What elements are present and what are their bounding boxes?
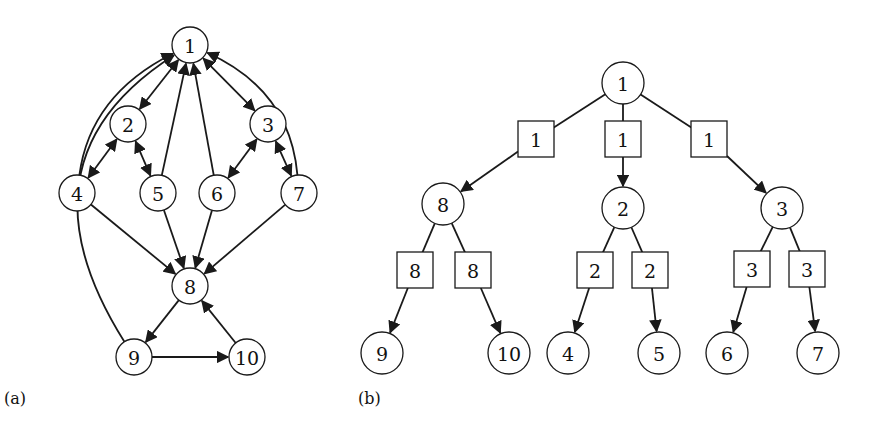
edge-weight-box-2-4: 2 bbox=[577, 252, 613, 288]
edge-6-1 bbox=[193, 64, 213, 176]
tree-node-1: 1 bbox=[602, 62, 644, 104]
node-label: 1 bbox=[617, 73, 629, 95]
edge-weight-box-3-7: 3 bbox=[789, 251, 825, 287]
node-label: 7 bbox=[812, 343, 824, 365]
panel-a-directed-graph: 12345678910 (a) bbox=[4, 27, 317, 408]
panel-a-nodes: 12345678910 bbox=[59, 27, 317, 375]
node-label: 5 bbox=[152, 183, 164, 205]
tree-node-5: 5 bbox=[638, 332, 680, 374]
node-5: 5 bbox=[140, 175, 176, 211]
edge-weight-box-2-5: 2 bbox=[632, 252, 668, 288]
tree-node-7: 7 bbox=[797, 332, 839, 374]
edge-8-9 bbox=[146, 300, 179, 342]
edge-box-3 bbox=[727, 156, 766, 193]
node-2: 2 bbox=[110, 106, 146, 142]
box-label: 1 bbox=[703, 129, 715, 151]
edge-10-8 bbox=[202, 301, 236, 343]
box-label: 3 bbox=[746, 259, 758, 281]
box-label: 1 bbox=[530, 129, 542, 151]
panel-b-nodes: 18239104567 bbox=[361, 62, 839, 374]
tree-node-6: 6 bbox=[706, 332, 748, 374]
edge-1-3 bbox=[203, 59, 254, 111]
node-label: 6 bbox=[211, 183, 223, 205]
edge-2-5 bbox=[136, 141, 151, 175]
tree-node-3: 3 bbox=[761, 187, 803, 229]
panel-a-label: (a) bbox=[4, 389, 26, 408]
edge-weight-box-8-9: 8 bbox=[397, 252, 433, 288]
node-8: 8 bbox=[172, 268, 208, 304]
node-label: 10 bbox=[235, 347, 259, 369]
box-label: 1 bbox=[617, 129, 629, 151]
edge-box-5 bbox=[652, 288, 657, 331]
tree-node-9: 9 bbox=[361, 332, 403, 374]
node-label: 9 bbox=[376, 343, 388, 365]
edge-3-6 bbox=[228, 139, 256, 177]
edge-weight-box-8-10: 8 bbox=[455, 252, 491, 288]
panel-b-tree: 111882233 18239104567 (b) bbox=[358, 62, 839, 408]
node-7: 7 bbox=[281, 175, 317, 211]
edge-box-9 bbox=[390, 288, 408, 333]
graph-figure: 12345678910 (a) 111882233 18239104567 (b… bbox=[0, 0, 872, 433]
box-label: 2 bbox=[644, 260, 656, 282]
node-label: 4 bbox=[71, 183, 83, 205]
node-label: 7 bbox=[293, 183, 305, 205]
edge-4-8 bbox=[91, 204, 175, 273]
edge-7-8 bbox=[204, 205, 285, 274]
node-label: 6 bbox=[721, 343, 733, 365]
node-10: 10 bbox=[229, 339, 265, 375]
edge-1-2 bbox=[140, 60, 179, 109]
edge-2-4 bbox=[88, 139, 116, 177]
node-label: 8 bbox=[437, 194, 449, 216]
tree-node-2: 2 bbox=[602, 187, 644, 229]
node-label: 4 bbox=[562, 343, 574, 365]
edge-box-4 bbox=[575, 288, 589, 332]
box-label: 2 bbox=[589, 260, 601, 282]
node-1: 1 bbox=[172, 27, 208, 63]
node-label: 2 bbox=[617, 198, 629, 220]
edge-weight-box-3-6: 3 bbox=[734, 251, 770, 287]
node-label: 1 bbox=[184, 35, 196, 57]
edge-3-7 bbox=[276, 141, 291, 175]
node-label: 3 bbox=[776, 198, 788, 220]
tree-node-4: 4 bbox=[547, 332, 589, 374]
panel-b-label: (b) bbox=[358, 389, 381, 408]
edge-5-8 bbox=[164, 210, 184, 268]
node-label: 10 bbox=[497, 343, 521, 365]
edge-weight-box-1-2: 1 bbox=[605, 121, 641, 157]
box-label: 3 bbox=[801, 259, 813, 281]
edge-5-1 bbox=[162, 64, 186, 176]
edge-weight-box-1-8: 1 bbox=[518, 121, 554, 157]
node-9: 9 bbox=[116, 339, 152, 375]
node-3: 3 bbox=[250, 106, 286, 142]
edge-box-10 bbox=[481, 288, 500, 333]
node-label: 5 bbox=[653, 343, 665, 365]
node-label: 2 bbox=[122, 114, 134, 136]
edge-weight-box-1-3: 1 bbox=[691, 121, 727, 157]
panel-a-edges bbox=[77, 53, 297, 357]
node-label: 8 bbox=[184, 276, 196, 298]
tree-node-8: 8 bbox=[422, 183, 464, 225]
edge-box-6 bbox=[733, 287, 746, 332]
edge-6-8 bbox=[195, 210, 212, 267]
box-label: 8 bbox=[409, 260, 421, 282]
tree-node-10: 10 bbox=[488, 332, 530, 374]
node-6: 6 bbox=[199, 175, 235, 211]
box-label: 8 bbox=[467, 260, 479, 282]
edge-box-8 bbox=[461, 152, 518, 192]
node-4: 4 bbox=[59, 175, 95, 211]
edge-box-7 bbox=[809, 287, 815, 331]
node-label: 9 bbox=[128, 347, 140, 369]
node-label: 3 bbox=[262, 114, 274, 136]
